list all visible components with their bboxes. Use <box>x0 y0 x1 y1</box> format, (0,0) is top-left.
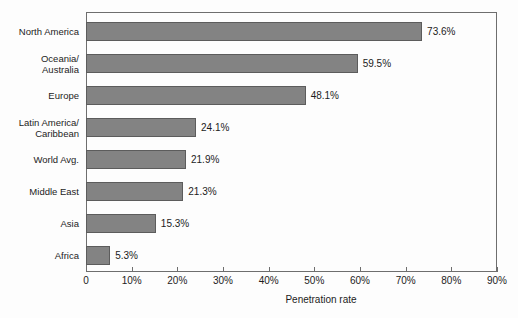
bar <box>86 54 358 73</box>
bar-row: Europe48.1% <box>86 80 497 112</box>
bar-value-label: 59.5% <box>363 58 391 69</box>
x-axis-tick-mark <box>406 267 407 272</box>
category-label: Oceania/ Australia <box>0 53 86 75</box>
x-axis-tick-label: 60% <box>340 275 380 286</box>
bar-row: Asia15.3% <box>86 208 497 240</box>
bar-row: North America73.6% <box>86 16 497 48</box>
bar <box>86 118 196 137</box>
bar-chart: North America73.6%Oceania/ Australia59.5… <box>0 0 518 318</box>
x-axis-tick-mark <box>177 267 178 272</box>
category-label: World Avg. <box>0 154 86 165</box>
bar <box>86 150 186 169</box>
x-axis-tick-label: 50% <box>294 275 334 286</box>
category-label: Africa <box>0 250 86 261</box>
bar-row: World Avg.21.9% <box>86 144 497 176</box>
category-label: Middle East <box>0 186 86 197</box>
x-axis-tick-mark <box>360 267 361 272</box>
x-axis-tick-label: 70% <box>386 275 426 286</box>
bar-value-label: 24.1% <box>201 122 229 133</box>
bar <box>86 182 183 201</box>
bar <box>86 214 156 233</box>
x-axis-tick-mark <box>223 267 224 272</box>
x-axis-tick-label: 80% <box>431 275 471 286</box>
x-axis-tick-mark <box>132 267 133 272</box>
category-label: Europe <box>0 90 86 101</box>
x-axis-tick-mark <box>451 267 452 272</box>
bar-value-label: 5.3% <box>115 250 138 261</box>
x-axis-title-text: Penetration rate <box>285 294 356 305</box>
bar-row: Africa5.3% <box>86 240 497 272</box>
category-label: Asia <box>0 218 86 229</box>
bar-row: Middle East21.3% <box>86 176 497 208</box>
bar-value-label: 48.1% <box>311 90 339 101</box>
x-axis-title: Penetration rate <box>0 294 518 305</box>
x-axis-tick-mark <box>269 267 270 272</box>
x-axis-tick-label: 20% <box>157 275 197 286</box>
category-label: North America <box>0 26 86 37</box>
x-axis-tick-label: 90% <box>477 275 517 286</box>
x-axis-tick-label: 40% <box>249 275 289 286</box>
x-axis-tick-mark <box>497 267 498 272</box>
bar-row: Latin America/ Caribbean24.1% <box>86 112 497 144</box>
bar <box>86 22 422 41</box>
bar-value-label: 73.6% <box>427 26 455 37</box>
bar-value-label: 21.9% <box>191 154 219 165</box>
x-axis-tick-label: 0 <box>66 275 106 286</box>
bar <box>86 86 306 105</box>
category-label: Latin America/ Caribbean <box>0 117 86 139</box>
bar-value-label: 21.3% <box>188 186 216 197</box>
bar <box>86 246 110 265</box>
bar-value-label: 15.3% <box>161 218 189 229</box>
x-axis-tick-label: 10% <box>112 275 152 286</box>
bar-row: Oceania/ Australia59.5% <box>86 48 497 80</box>
x-axis-tick-mark <box>314 267 315 272</box>
x-axis-tick-label: 30% <box>203 275 243 286</box>
